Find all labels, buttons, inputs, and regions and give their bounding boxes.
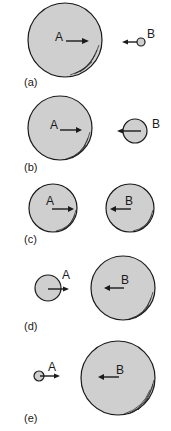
ball-a-label: A	[48, 360, 56, 374]
ball-a	[35, 275, 61, 301]
ball-a	[28, 96, 92, 160]
panel-label: (c)	[24, 233, 37, 245]
collision-diagram: A B (a) A B (b) A B (c)	[0, 0, 171, 431]
panel-label: (e)	[24, 412, 37, 424]
ball-a-label: A	[62, 268, 70, 282]
ball-a-label: A	[55, 30, 63, 44]
panel-label: (d)	[24, 320, 37, 332]
ball-b-label: B	[116, 363, 124, 377]
arrow-head-icon	[117, 129, 123, 134]
panel-e: A B (e)	[24, 341, 155, 424]
ball-a-label: A	[50, 118, 58, 132]
arrow-head-icon	[122, 40, 128, 45]
panel-label: (a)	[24, 76, 37, 88]
arrow-head-icon	[63, 287, 69, 292]
arrow-head-icon	[54, 374, 60, 379]
ball-b-label: B	[147, 27, 155, 41]
panel-d: A B (d)	[24, 256, 155, 332]
ball-b-label: B	[152, 117, 160, 131]
ball-a	[28, 3, 102, 77]
ball-a-label: A	[46, 194, 54, 208]
ball-b-label: B	[125, 194, 133, 208]
panel-c: A B (c)	[24, 184, 154, 245]
ball-b-label: B	[121, 273, 129, 287]
panel-a: A B (a)	[24, 3, 155, 88]
ball-b	[137, 38, 145, 46]
panel-b: A B (b)	[24, 96, 160, 173]
panel-label: (b)	[24, 161, 37, 173]
